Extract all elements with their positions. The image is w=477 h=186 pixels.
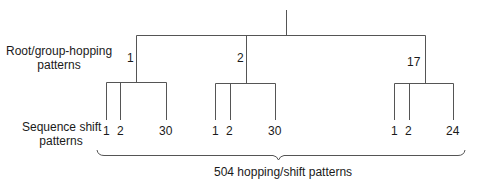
total-patterns-label: 504 hopping/shift patterns [214,165,352,179]
group-1-leaf-2-label: 2 [117,124,124,138]
group-1-leaf-3-label: 30 [159,124,172,138]
hopping-tree-diagram [0,0,477,186]
group-2-label: 2 [237,51,244,65]
group-2-leaf-2-label: 2 [226,124,233,138]
group-2-leaf-1-label: 1 [212,124,219,138]
sequence-label-line1: Sequence shift [22,120,100,134]
group-17-leaf-1-label: 1 [391,124,398,138]
group-17-leaf-3-label: 24 [446,124,459,138]
root-group-label-line1: Root/group-hopping [6,44,112,58]
group-17-leaf-2-label: 2 [405,124,412,138]
total-brace [97,150,465,160]
sequence-label-line2: patterns [22,134,100,148]
group-2-leaf-3-label: 30 [268,124,281,138]
group-17-label: 17 [407,55,420,69]
root-group-label-line2: patterns [6,58,112,72]
sequence-shift-label: Sequence shift patterns [22,120,100,148]
root-group-hopping-label: Root/group-hopping patterns [6,44,112,72]
group-1-label: 1 [127,51,134,65]
group-1-leaf-1-label: 1 [103,124,110,138]
